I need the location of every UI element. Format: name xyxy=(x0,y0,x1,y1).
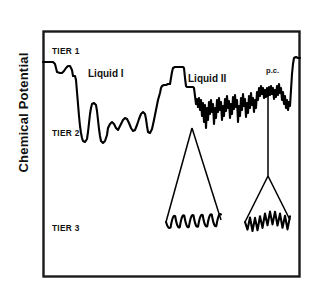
landscape-plot-svg: TIER 1 TIER 2 TIER 3 Liquid I Liquid II … xyxy=(0,0,322,296)
funnel-p-c xyxy=(245,88,290,231)
funnel-p-c-basin xyxy=(245,212,290,231)
liquid-1-label: Liquid I xyxy=(88,68,124,79)
liquid-2-label: Liquid II xyxy=(188,73,227,84)
plot-frame xyxy=(44,32,300,277)
tier-2-label: TIER 2 xyxy=(52,128,80,138)
p-c-label: p.c. xyxy=(266,66,279,75)
funnel-liquid-2-right-wall xyxy=(192,128,221,220)
funnel-liquid-2-basin xyxy=(166,214,221,228)
energy-landscape-figure: Chemical Potential TIER 1 TIER 2 TIER 3 … xyxy=(0,0,322,296)
funnel-liquid-2-left-wall xyxy=(166,128,192,222)
y-axis-label: Chemical Potential xyxy=(16,28,31,198)
tier-3-label: TIER 3 xyxy=(52,223,80,233)
tier-1-label: TIER 1 xyxy=(52,46,80,56)
chemical-potential-trace xyxy=(43,57,300,143)
funnel-liquid-2 xyxy=(166,128,221,228)
